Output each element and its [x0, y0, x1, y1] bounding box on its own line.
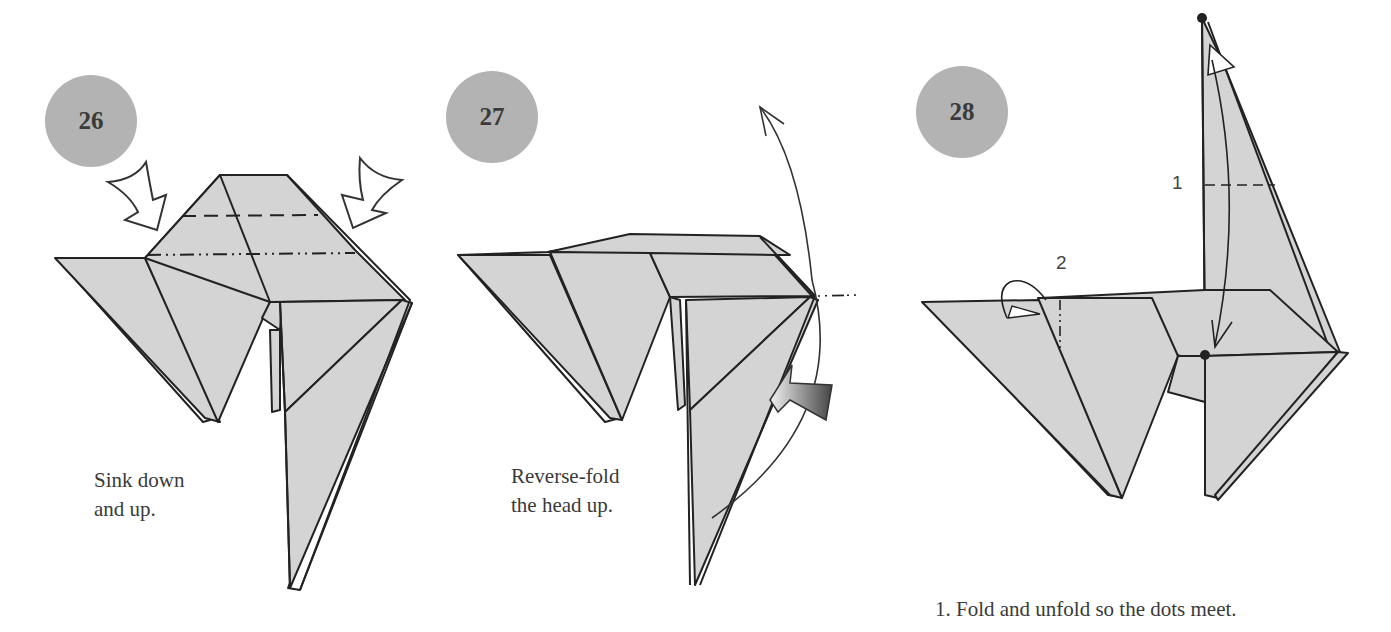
- step-number: 28: [950, 98, 975, 126]
- step-26-badge: 26: [45, 75, 137, 167]
- instruction-1: 1. Fold and unfold so the dots meet.: [935, 595, 1237, 624]
- step-number: 27: [480, 103, 505, 131]
- step-27-model: [458, 234, 818, 585]
- fold-label-1: 1: [1172, 172, 1183, 194]
- step-number: 26: [79, 107, 104, 135]
- step-26-model: [55, 175, 412, 590]
- step-28-instructions: 1. Fold and unfold so the dots meet. 2. …: [935, 537, 1237, 632]
- arrowhead-icon: [1208, 45, 1234, 75]
- step-28-badge: 28: [916, 66, 1008, 158]
- dot-marker-top: [1197, 13, 1207, 23]
- step-27-badge: 27: [446, 71, 538, 163]
- mountain-fold-line: [818, 295, 858, 296]
- step-27-caption: Reverse-fold the head up.: [511, 462, 619, 520]
- fold-label-2: 2: [1056, 252, 1067, 274]
- step-26-caption: Sink down and up.: [94, 466, 184, 524]
- dot-marker-body: [1200, 350, 1210, 360]
